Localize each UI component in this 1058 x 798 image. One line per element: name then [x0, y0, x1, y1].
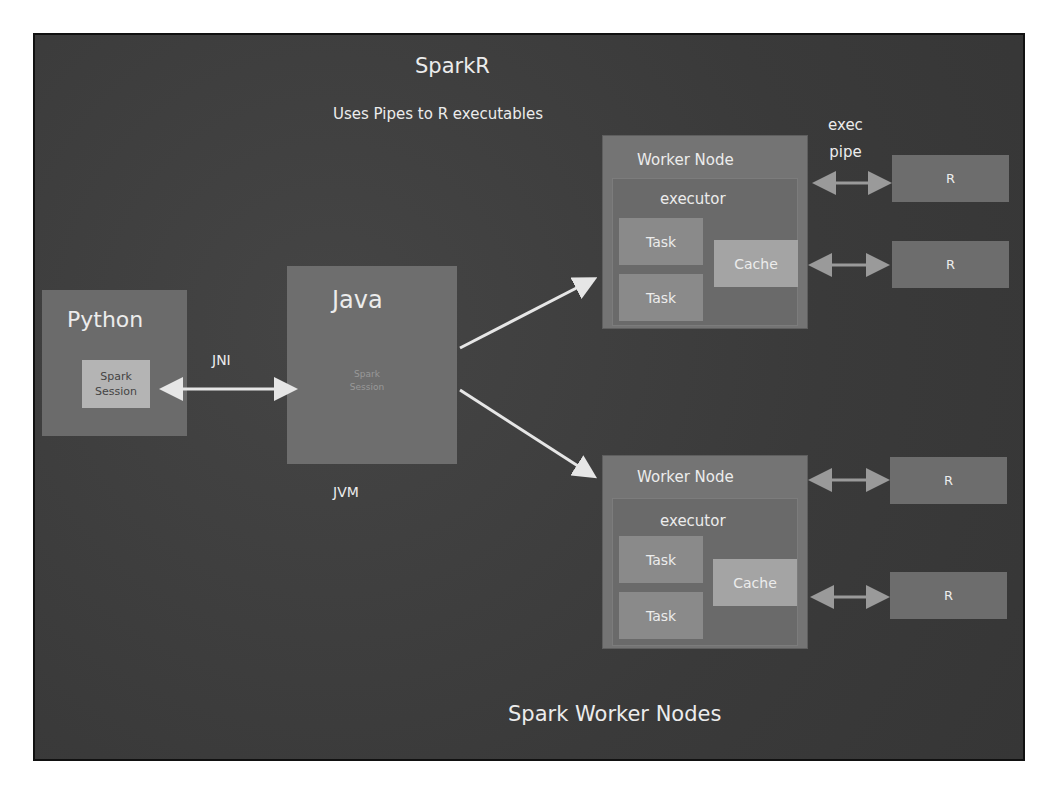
java-spark-session: Spark Session [337, 363, 397, 399]
worker-1-executor-label: executor [660, 190, 726, 208]
worker-1-task-2: Task [619, 274, 703, 321]
python-session-line-1: Spark [100, 369, 132, 384]
diagram-title: SparkR [415, 54, 490, 78]
python-spark-session: Spark Session [82, 360, 150, 408]
worker-1-cache: Cache [714, 240, 798, 287]
worker-2-r-process-1: R [890, 457, 1007, 504]
spark-worker-nodes-label: Spark Worker Nodes [508, 702, 721, 726]
worker-1-r-process-1: R [892, 155, 1009, 202]
worker-2-task-2: Task [619, 592, 703, 639]
python-label: Python [67, 307, 143, 332]
exec-pipe-label: exec pipe [828, 112, 863, 166]
worker-2-r-process-2: R [890, 572, 1007, 619]
java-session-line-2: Session [350, 381, 384, 394]
worker-node-2-label: Worker Node [637, 468, 734, 486]
java-session-line-1: Spark [354, 368, 380, 381]
worker-node-1-label: Worker Node [637, 151, 734, 169]
jvm-label: JVM [333, 484, 359, 500]
diagram-subtitle: Uses Pipes to R executables [333, 105, 543, 123]
pipe-label: pipe [828, 139, 863, 166]
worker-2-cache: Cache [713, 559, 797, 606]
worker-2-task-1: Task [619, 536, 703, 583]
exec-label: exec [828, 112, 863, 139]
java-label: Java [332, 286, 383, 314]
worker-2-executor-label: executor [660, 512, 726, 530]
jni-label: JNI [212, 352, 231, 368]
worker-1-task-1: Task [619, 218, 703, 265]
python-session-line-2: Session [95, 384, 137, 399]
worker-1-r-process-2: R [892, 241, 1009, 288]
